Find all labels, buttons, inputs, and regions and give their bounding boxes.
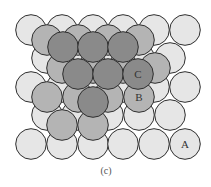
sphere-b	[47, 110, 78, 141]
sphere-b	[32, 82, 63, 113]
label-a: A	[181, 138, 189, 150]
label-b: B	[135, 91, 142, 103]
close-packed-layers-diagram: A B C (c)	[0, 0, 211, 187]
label-c: C	[134, 68, 141, 80]
sphere-a	[170, 72, 201, 103]
sphere-c	[63, 59, 94, 90]
sphere-a	[139, 129, 170, 160]
sphere-c	[93, 59, 124, 90]
sphere-c	[48, 32, 79, 63]
sphere-a	[170, 15, 201, 46]
sphere-c	[108, 32, 139, 63]
sphere-a	[16, 129, 47, 160]
sphere-a	[108, 129, 139, 160]
sphere-c	[78, 87, 109, 118]
figure-caption: (c)	[100, 165, 111, 177]
sphere-c	[78, 32, 109, 63]
sphere-a	[155, 100, 186, 131]
